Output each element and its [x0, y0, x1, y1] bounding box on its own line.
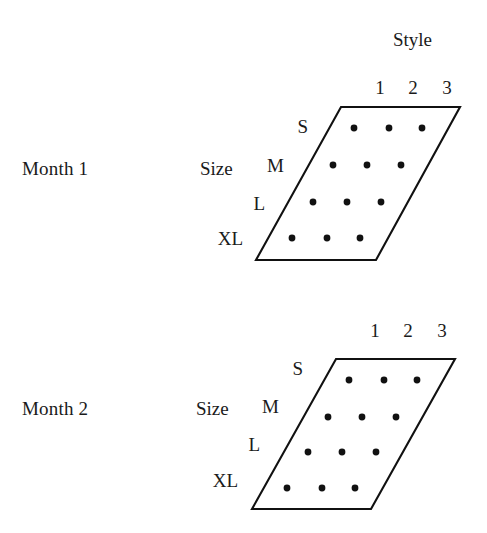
design-point: [398, 162, 405, 169]
design-point: [414, 377, 421, 384]
design-space-figure: Style 1 2 3 Month 1 Size S M L XL: [0, 0, 487, 533]
panel-month-2: 1 2 3 Month 2 Size S M L XL: [0, 290, 487, 533]
design-point: [344, 199, 351, 206]
design-point: [305, 449, 312, 456]
design-point: [393, 414, 400, 421]
design-region-month-1: [0, 0, 487, 290]
design-point: [310, 199, 317, 206]
design-point: [373, 449, 380, 456]
design-point: [325, 414, 332, 421]
design-point: [359, 414, 366, 421]
design-point: [419, 125, 426, 132]
design-point: [346, 377, 353, 384]
design-point: [352, 485, 359, 492]
design-point: [378, 199, 385, 206]
design-point: [381, 377, 388, 384]
design-point: [357, 235, 364, 242]
design-point: [284, 485, 291, 492]
design-point: [289, 235, 296, 242]
design-point: [319, 485, 326, 492]
design-point: [324, 235, 331, 242]
design-point: [339, 449, 346, 456]
design-region-month-2: [0, 290, 487, 533]
design-point: [364, 162, 371, 169]
design-point: [386, 125, 393, 132]
design-point: [351, 125, 358, 132]
panel-month-1: Style 1 2 3 Month 1 Size S M L XL: [0, 0, 487, 290]
design-point: [330, 162, 337, 169]
